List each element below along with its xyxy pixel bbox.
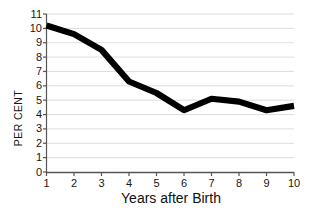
x-tick-label: 4 bbox=[117, 178, 141, 189]
x-tick-label: 8 bbox=[227, 178, 251, 189]
x-tick-label: 3 bbox=[90, 178, 114, 189]
chart-container: 01234567891011 12345678910 PER CENT Year… bbox=[0, 0, 310, 215]
y-axis-title: PER CENT bbox=[10, 38, 26, 198]
x-tick-label: 6 bbox=[172, 178, 196, 189]
x-tick-label: 2 bbox=[62, 178, 86, 189]
x-tick-label: 1 bbox=[35, 178, 59, 189]
x-axis-title: Years after Birth bbox=[46, 190, 296, 206]
x-axis-tick-labels: 12345678910 bbox=[0, 0, 310, 215]
x-tick-label: 10 bbox=[282, 178, 306, 189]
x-tick-label: 7 bbox=[200, 178, 224, 189]
x-tick-label: 5 bbox=[145, 178, 169, 189]
x-tick-label: 9 bbox=[255, 178, 279, 189]
